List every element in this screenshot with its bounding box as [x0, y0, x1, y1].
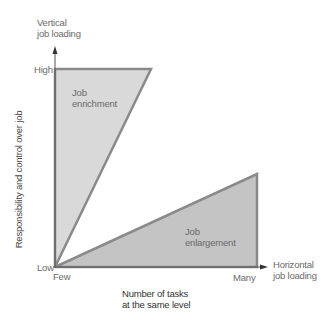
job-enrichment-label: Job enrichment	[72, 87, 117, 109]
x-axis-label: Number of tasks at the same level	[122, 288, 190, 310]
enrichment-label-line1: Job	[72, 87, 117, 98]
x-axis-title: Horizontal job loading	[273, 259, 317, 281]
x-tick-many: Many	[233, 272, 255, 283]
y-axis-title: Vertical job loading	[37, 17, 81, 39]
y-axis-arrow-icon	[53, 46, 58, 54]
x-tick-few: Few	[53, 271, 70, 282]
x-axis-arrow-icon	[260, 265, 268, 270]
enlargement-label-line1: Job	[185, 226, 236, 237]
enlargement-label-line2: enlargement	[185, 237, 236, 248]
x-axis-title-line2: job loading	[273, 270, 317, 281]
x-axis-label-line1: Number of tasks	[122, 288, 190, 299]
y-axis-title-line2: job loading	[37, 28, 81, 39]
x-axis-title-line1: Horizontal	[273, 259, 317, 270]
y-tick-low: Low	[37, 262, 54, 273]
y-axis-title-line1: Vertical	[37, 17, 81, 28]
enrichment-label-line2: enrichment	[72, 98, 117, 109]
job-enlargement-label: Job enlargement	[185, 226, 236, 248]
y-axis-label: Responsibility and control over job	[13, 100, 24, 260]
y-tick-high: High	[34, 64, 53, 75]
x-axis-label-line2: at the same level	[122, 299, 190, 310]
